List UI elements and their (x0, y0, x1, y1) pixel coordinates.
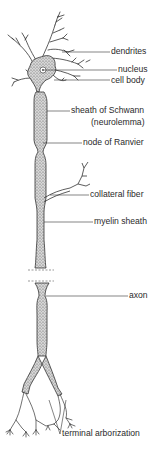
axon-upper (34, 92, 47, 268)
label-terminal-arborization: terminal arborization (62, 429, 140, 438)
label-myelin-sheath: myelin sheath (94, 217, 147, 226)
label-cell-body: cell body (111, 76, 145, 85)
label-nucleus: nucleus (118, 65, 148, 74)
label-axon: axon (129, 291, 148, 300)
break-marks (28, 270, 54, 281)
collateral-fiber (44, 162, 90, 202)
label-dendrites: dendrites (111, 47, 146, 56)
axon-lower (35, 283, 49, 356)
label-collateral-fiber: collateral fiber (90, 190, 144, 199)
terminal-branches (22, 356, 62, 396)
label-neurolemma: (neurolemma) (91, 118, 145, 127)
label-sheath-of-schwann: sheath of Schwann (71, 106, 144, 115)
label-node-of-ranvier: node of Ranvier (83, 138, 144, 147)
